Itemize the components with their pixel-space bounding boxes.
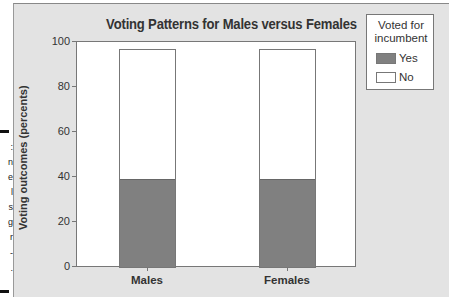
x-label-males: Males (107, 274, 187, 286)
y-tick-100: 100 (42, 35, 70, 47)
caption-marker (0, 290, 9, 293)
y-tick-20: 20 (42, 215, 70, 227)
y-axis-label: Voting outcomes (percents) (17, 90, 29, 230)
y-tick-60: 60 (42, 125, 70, 137)
x-tick-mark (147, 267, 148, 271)
legend-label-no: No (399, 71, 414, 83)
y-tick-80: 80 (42, 80, 70, 92)
y-tick-40: 40 (42, 170, 70, 182)
bar-segment-no (260, 50, 315, 180)
chart-panel: Voting Patterns for Males versus Females… (13, 3, 449, 297)
bar-females (259, 49, 316, 268)
x-tick-mark (287, 267, 288, 271)
bar-segment-no (120, 50, 175, 180)
x-label-females: Females (247, 274, 327, 286)
figure-caption-fragment: : n e l s g r - . (0, 0, 13, 296)
legend-title: Voted for incumbent (373, 19, 429, 45)
y-tick-0: 0 (42, 260, 70, 272)
legend-item-no: No (376, 71, 414, 83)
legend: Voted for incumbent Yes No (366, 14, 434, 90)
bar-males (119, 49, 176, 268)
swatch-no (376, 72, 396, 83)
plot-area (76, 41, 356, 267)
bar-segment-yes (260, 179, 315, 267)
swatch-yes (376, 53, 396, 64)
caption-marker (0, 130, 9, 133)
legend-item-yes: Yes (376, 52, 418, 64)
bar-segment-yes (120, 179, 175, 267)
legend-label-yes: Yes (399, 52, 418, 64)
